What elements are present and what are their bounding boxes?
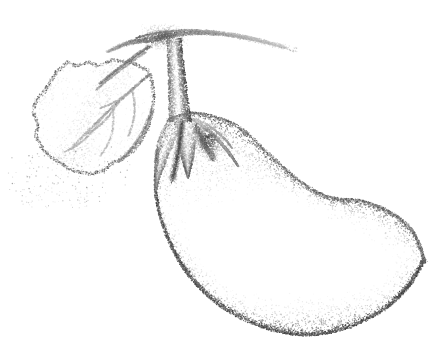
stipple-drawing-canvas bbox=[0, 0, 444, 353]
illustration-artboard bbox=[0, 0, 444, 353]
